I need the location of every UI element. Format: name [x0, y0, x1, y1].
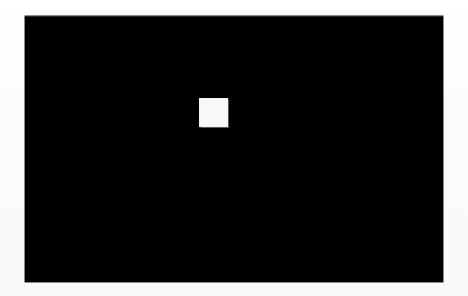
white-square-marker[interactable] — [199, 98, 228, 127]
screen-alt-text — [25, 16, 26, 17]
black-screen-region[interactable] — [25, 16, 443, 282]
screenshot-root — [0, 0, 468, 296]
